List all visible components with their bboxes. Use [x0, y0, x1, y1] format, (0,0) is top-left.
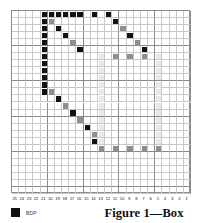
grid-cell: [141, 74, 148, 81]
grid-cell: [26, 18, 33, 25]
grid-cell: [84, 187, 91, 194]
grid-cell: [105, 152, 112, 159]
grid-cell: [184, 110, 191, 117]
grid-cell: [127, 18, 134, 25]
grid-cell: [119, 180, 126, 187]
grid-cell: [84, 117, 91, 124]
grid-cell: [33, 166, 40, 173]
grid-cell: [41, 95, 48, 102]
grid-cell-marked: [56, 12, 61, 17]
grid-cell: [69, 18, 76, 25]
grid-cell: [19, 152, 26, 159]
grid-cell: [33, 39, 40, 46]
grid-cell: [19, 103, 26, 110]
grid-cell: [148, 39, 155, 46]
grid-cell-marked: [99, 61, 104, 66]
grid-cell: [177, 67, 184, 74]
x-axis-tick-20: 20: [47, 194, 54, 203]
grid-cell: [12, 131, 19, 138]
grid-cell: [19, 173, 26, 180]
grid-cell: [76, 81, 83, 88]
grid-cell-marked: [156, 54, 161, 59]
x-axis-tick-24: 24: [18, 194, 25, 203]
grid-cell: [76, 159, 83, 166]
grid-cell: [76, 131, 83, 138]
grid-cell: [170, 159, 177, 166]
grid-cell: [127, 67, 134, 74]
grid-cell: [48, 187, 55, 194]
grid-cell: [55, 18, 62, 25]
grid-cell: [184, 138, 191, 145]
grid-cell: [177, 95, 184, 102]
grid-cell: [148, 145, 155, 152]
grid-cell-marked: [99, 82, 104, 87]
grid-cell: [12, 110, 19, 117]
grid-cell: [134, 67, 141, 74]
grid-cell: [84, 18, 91, 25]
grid-cell: [62, 173, 69, 180]
grid-cell: [33, 32, 40, 39]
grid-cell-marked: [156, 103, 161, 108]
grid-cell: [170, 11, 177, 18]
grid-cell: [184, 11, 191, 18]
grid-cell-marked: [99, 125, 104, 130]
grid-cell: [84, 131, 91, 138]
grid-cell: [55, 159, 62, 166]
grid-cell: [141, 117, 148, 124]
grid-cell-marked: [49, 89, 54, 94]
grid-cell: [19, 46, 26, 53]
grid-cell: [177, 39, 184, 46]
grid-cell: [98, 18, 105, 25]
grid-cell: [12, 117, 19, 124]
grid-cell: [170, 46, 177, 53]
grid-cell: [112, 110, 119, 117]
grid-cell: [119, 131, 126, 138]
grid-cell: [148, 25, 155, 32]
grid-cell-marked: [156, 96, 161, 101]
grid-cell: [141, 88, 148, 95]
grid-cell: [76, 124, 83, 131]
grid-cell: [177, 124, 184, 131]
grid-cell: [134, 166, 141, 173]
grid-cell: [84, 88, 91, 95]
grid-cell: [26, 103, 33, 110]
x-axis-tick-12: 12: [104, 194, 111, 203]
grid-cell: [76, 60, 83, 67]
grid-cell: [69, 124, 76, 131]
grid-cell: [91, 159, 98, 166]
grid-cell: [155, 152, 162, 159]
grid-cell: [84, 95, 91, 102]
grid-cell-marked: [77, 12, 82, 17]
grid-cell: [55, 166, 62, 173]
grid-cell: [184, 25, 191, 32]
grid-cell: [127, 39, 134, 46]
grid-plot: [11, 10, 190, 193]
grid-cell-marked: [156, 117, 161, 122]
grid-cell: [19, 25, 26, 32]
grid-cell: [55, 124, 62, 131]
grid-cell: [148, 46, 155, 53]
grid-cell: [134, 81, 141, 88]
grid-cell: [184, 187, 191, 194]
grid-cell: [112, 46, 119, 53]
grid-cell: [162, 53, 169, 60]
grid-cell: [141, 180, 148, 187]
grid-cell: [48, 131, 55, 138]
grid-cell: [162, 32, 169, 39]
grid-cell: [134, 180, 141, 187]
grid-cell: [91, 74, 98, 81]
grid-cell: [141, 110, 148, 117]
grid-cell: [41, 173, 48, 180]
grid-cell: [62, 81, 69, 88]
grid-cell-marked: [127, 54, 132, 59]
grid-cell: [19, 145, 26, 152]
grid-cell: [12, 159, 19, 166]
grid-cell: [33, 11, 40, 18]
grid-cell: [127, 173, 134, 180]
grid-cell: [119, 152, 126, 159]
grid-cell: [134, 25, 141, 32]
grid-cell: [170, 187, 177, 194]
grid-cell-marked: [42, 61, 47, 66]
grid-cell: [141, 159, 148, 166]
grid-cell: [112, 11, 119, 18]
